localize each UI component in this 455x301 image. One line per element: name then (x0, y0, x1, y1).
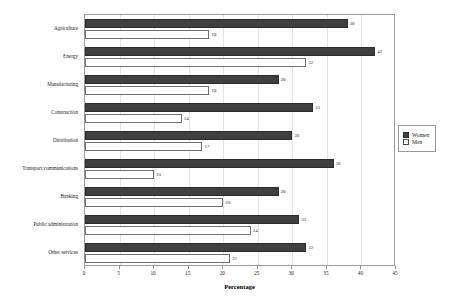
bar-women (85, 187, 279, 196)
bar-line-women: 42 (85, 47, 394, 56)
legend-swatch-women-icon (403, 132, 409, 138)
x-tick-10 (153, 266, 154, 269)
x-tick-label-15: 15 (185, 270, 190, 276)
chart-legend: Women Men (398, 125, 436, 152)
bar-women (85, 159, 334, 168)
bar-line-men: 24 (85, 226, 394, 235)
bar-value-label: 24 (253, 228, 258, 233)
bar-value-label: 31 (301, 217, 306, 222)
bar-men (85, 170, 154, 179)
bar-value-label: 18 (211, 32, 216, 37)
x-tick-30 (291, 266, 292, 269)
x-tick-label-40: 40 (358, 270, 363, 276)
bar-value-label: 28 (281, 189, 286, 194)
bar-line-women: 32 (85, 243, 394, 252)
x-tick-35 (326, 266, 327, 269)
bar-men (85, 114, 182, 123)
bar-value-label: 28 (281, 77, 286, 82)
category-label: Energy (63, 53, 78, 59)
bar-value-label: 20 (225, 200, 230, 205)
bar-men (85, 142, 202, 151)
bar-group: 3221 (85, 239, 394, 267)
bar-value-label: 33 (315, 105, 320, 110)
x-tick-label-35: 35 (323, 270, 328, 276)
category-label: Construction (51, 109, 78, 115)
x-tick-label-0: 0 (83, 270, 86, 276)
bar-group: 3124 (85, 211, 394, 239)
bar-value-label: 32 (308, 60, 313, 65)
bar-group: 3314 (85, 99, 394, 127)
bar-line-men: 17 (85, 142, 394, 151)
legend-item-women: Women (403, 132, 429, 138)
x-tick-label-5: 5 (117, 270, 120, 276)
bar-women (85, 243, 306, 252)
bar-value-label: 14 (184, 116, 189, 121)
bar-men (85, 198, 223, 207)
bar-women (85, 47, 375, 56)
bar-women (85, 215, 299, 224)
bar-group: 3818 (85, 15, 394, 43)
bar-value-label: 21 (232, 256, 237, 261)
bar-men (85, 86, 209, 95)
bar-value-label: 36 (336, 161, 341, 166)
bar-value-label: 30 (294, 133, 299, 138)
category-label: Other services (48, 249, 78, 255)
x-tick-label-25: 25 (254, 270, 259, 276)
horizontal-bar-chart: AgricultureEnergyManufacturingConstructi… (0, 0, 455, 301)
bar-women (85, 75, 279, 84)
legend-swatch-men-icon (403, 139, 409, 145)
bar-line-men: 32 (85, 58, 394, 67)
legend-label-women: Women (412, 132, 429, 138)
bar-value-label: 42 (377, 49, 382, 54)
category-axis-labels: AgricultureEnergyManufacturingConstructi… (0, 14, 81, 266)
x-tick-40 (360, 266, 361, 269)
bar-women (85, 19, 348, 28)
bar-men (85, 30, 209, 39)
bar-line-women: 30 (85, 131, 394, 140)
bar-line-men: 10 (85, 170, 394, 179)
x-tick-label-20: 20 (220, 270, 225, 276)
bar-men (85, 226, 251, 235)
bar-value-label: 32 (308, 245, 313, 250)
plot-area: 381842322818331430173610282031243221 (84, 14, 395, 266)
bar-men (85, 254, 230, 263)
bar-line-women: 28 (85, 187, 394, 196)
bar-group: 4232 (85, 43, 394, 71)
category-label: Public administration (33, 221, 78, 227)
bar-line-men: 21 (85, 254, 394, 263)
x-tick-20 (222, 266, 223, 269)
legend-item-men: Men (403, 139, 429, 145)
x-tick-25 (257, 266, 258, 269)
legend-label-men: Men (412, 139, 422, 145)
bar-line-women: 31 (85, 215, 394, 224)
bar-line-women: 38 (85, 19, 394, 28)
bar-group: 2818 (85, 71, 394, 99)
bar-group: 2820 (85, 183, 394, 211)
bar-value-label: 18 (211, 88, 216, 93)
category-label: Banking (60, 193, 78, 199)
x-axis-title: Percentage (84, 283, 395, 290)
bar-value-label: 17 (204, 144, 209, 149)
bar-women (85, 131, 292, 140)
x-tick-label-30: 30 (289, 270, 294, 276)
bar-value-label: 10 (156, 172, 161, 177)
bar-men (85, 58, 306, 67)
bar-line-men: 14 (85, 114, 394, 123)
x-tick-label-45: 45 (392, 270, 397, 276)
bar-group: 3017 (85, 127, 394, 155)
x-tick-label-10: 10 (151, 270, 156, 276)
bar-women (85, 103, 313, 112)
category-label: Manufacturing (47, 81, 78, 87)
x-tick-5 (119, 266, 120, 269)
bar-value-label: 38 (350, 21, 355, 26)
bar-line-men: 20 (85, 198, 394, 207)
x-tick-45 (395, 266, 396, 269)
bar-group: 3610 (85, 155, 394, 183)
bar-line-men: 18 (85, 30, 394, 39)
category-label: Transport/communications (22, 165, 78, 171)
x-tick-15 (188, 266, 189, 269)
x-tick-0 (84, 266, 85, 269)
category-label: Agriculture (54, 25, 78, 31)
category-label: Distribution (53, 137, 78, 143)
bar-line-women: 33 (85, 103, 394, 112)
